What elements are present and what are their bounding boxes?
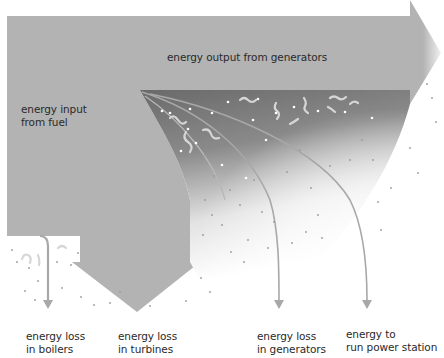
boilers-loss-label: energy loss in boilers xyxy=(26,330,85,356)
turbines-loss-label: energy loss in turbines xyxy=(118,330,177,356)
boiler-notch xyxy=(7,236,80,262)
boiler-loss-arrowhead xyxy=(43,300,53,309)
generators-loss-label: energy loss in generators xyxy=(257,330,326,356)
input-label-line2: from fuel xyxy=(21,116,87,129)
station-energy-label: energy to run power station xyxy=(346,328,437,354)
energy-flow-diagram: energy output from generators energy inp… xyxy=(0,0,444,358)
generators-loss-arrowhead xyxy=(274,300,284,309)
right-fade xyxy=(360,0,444,358)
station-label-line2: run power station xyxy=(346,341,437,354)
input-label: energy input from fuel xyxy=(21,103,87,129)
station-label-line1: energy to xyxy=(346,328,437,341)
generators-label-line1: energy loss xyxy=(257,330,326,343)
output-label: energy output from generators xyxy=(167,51,327,64)
generators-label-line2: in generators xyxy=(257,343,326,356)
boilers-label-line1: energy loss xyxy=(26,330,85,343)
turbines-label-line2: in turbines xyxy=(118,343,177,356)
output-label-text: energy output from generators xyxy=(167,51,327,64)
boilers-label-line2: in boilers xyxy=(26,343,85,356)
input-label-line1: energy input xyxy=(21,103,87,116)
turbines-label-line1: energy loss xyxy=(118,330,177,343)
